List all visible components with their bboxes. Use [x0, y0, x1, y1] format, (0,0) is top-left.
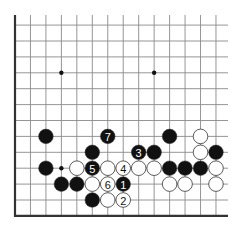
stone-circle — [85, 177, 100, 192]
stone-circle — [193, 161, 208, 176]
black-stone — [70, 177, 85, 192]
star-point-icon — [152, 71, 156, 75]
white-stone — [100, 161, 115, 176]
black-stone — [39, 161, 54, 176]
stone-circle — [85, 145, 100, 160]
white-stone — [193, 129, 208, 144]
stone-circle — [100, 161, 115, 176]
black-stone: 3 — [131, 145, 146, 160]
black-stone — [85, 145, 100, 160]
white-stone — [209, 161, 224, 176]
move-number-label: 4 — [120, 163, 126, 175]
stone-circle — [162, 129, 177, 144]
black-stone — [85, 193, 100, 208]
white-stone — [100, 193, 115, 208]
white-stone — [147, 161, 162, 176]
stone-circle — [209, 145, 224, 160]
stone-circle — [178, 177, 193, 192]
black-stone — [39, 129, 54, 144]
move-number-label: 2 — [120, 195, 126, 207]
black-stone — [178, 161, 193, 176]
stone-circle — [162, 161, 177, 176]
black-stone — [162, 129, 177, 144]
white-stone: 6 — [100, 177, 115, 192]
stone-circle — [131, 161, 146, 176]
white-stone: 4 — [116, 161, 131, 176]
move-number-label: 6 — [105, 179, 111, 191]
stone-circle — [39, 161, 54, 176]
white-stone — [209, 177, 224, 192]
black-stone — [54, 177, 69, 192]
white-stone: 2 — [116, 193, 131, 208]
star-point-icon — [59, 71, 63, 75]
stone-circle — [39, 129, 54, 144]
stone-circle — [85, 193, 100, 208]
white-stone — [193, 145, 208, 160]
black-stone — [147, 145, 162, 160]
stone-circle — [70, 161, 85, 176]
black-stone: 5 — [85, 161, 100, 176]
go-board: 7354612 — [0, 0, 240, 230]
black-stone — [193, 161, 208, 176]
stone-circle — [162, 177, 177, 192]
stone-circle — [54, 177, 69, 192]
stone-circle — [147, 161, 162, 176]
black-stone: 1 — [116, 177, 131, 192]
white-stone — [70, 161, 85, 176]
white-stone — [178, 177, 193, 192]
stone-circle — [178, 161, 193, 176]
black-stone — [162, 161, 177, 176]
move-number-label: 5 — [89, 163, 95, 175]
stone-circle — [209, 161, 224, 176]
move-number-label: 7 — [105, 131, 111, 143]
stone-circle — [193, 145, 208, 160]
stone-circle — [70, 177, 85, 192]
stone-circle — [100, 193, 115, 208]
stone-circle — [147, 145, 162, 160]
move-number-label: 1 — [120, 179, 126, 191]
white-stone — [131, 161, 146, 176]
white-stone — [162, 177, 177, 192]
move-number-label: 3 — [136, 147, 142, 159]
star-point-icon — [59, 166, 63, 170]
black-stone — [209, 145, 224, 160]
stone-circle — [193, 129, 208, 144]
white-stone — [85, 177, 100, 192]
stone-circle — [209, 177, 224, 192]
black-stone: 7 — [100, 129, 115, 144]
